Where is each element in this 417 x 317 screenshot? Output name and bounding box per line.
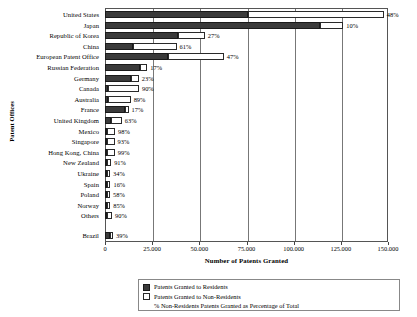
bar-segment-nonresidents: [168, 53, 224, 60]
bar-rows-container: United States48%Japan10%Republic of Kore…: [0, 8, 417, 242]
legend-label-percentage: % Non-Residents Patents Granted as Perce…: [154, 302, 395, 310]
patents-granted-chart: Patent Offices United States48%Japan10%R…: [0, 0, 417, 317]
bar-row: Hong Kong, China99%: [0, 147, 417, 158]
x-tick-label: 150.000: [368, 245, 408, 252]
category-label: Australia: [0, 94, 99, 105]
percentage-label: 58%: [113, 189, 125, 200]
category-label: Singapore: [0, 136, 99, 147]
legend-label-nonresidents: Patents Granted to Non-Residents: [154, 293, 241, 301]
bar-segment-nonresidents: [107, 212, 112, 219]
bar-segment-nonresidents: [107, 128, 115, 135]
percentage-label: 99%: [118, 147, 130, 158]
category-label: Norway: [0, 200, 99, 211]
bar-segment-residents: [105, 32, 178, 39]
bar-row: United States48%: [0, 9, 417, 20]
category-label: Ukraine: [0, 168, 99, 179]
legend-item-nonresidents: Patents Granted to Non-Residents: [143, 293, 395, 301]
category-label: Hong Kong, China: [0, 147, 99, 158]
bar-row: France17%: [0, 104, 417, 115]
bar-row: Poland58%: [0, 189, 417, 200]
category-label: United Kingdom: [0, 115, 99, 126]
percentage-label: 61%: [180, 41, 192, 52]
category-label: Germany: [0, 73, 99, 84]
percentage-label: 91%: [114, 157, 126, 168]
bar-segment-nonresidents: [320, 22, 343, 29]
percentage-label: 39%: [116, 230, 128, 241]
category-label: France: [0, 104, 99, 115]
category-label: European Patent Office: [0, 51, 99, 62]
bar-row: China61%: [0, 41, 417, 52]
category-label: Mexico: [0, 126, 99, 137]
percentage-label: 48%: [387, 9, 399, 20]
percentage-label: 85%: [113, 200, 125, 211]
category-label: Russian Federation: [0, 62, 99, 73]
category-label: Republic of Korea: [0, 30, 99, 41]
bar-segment-nonresidents: [107, 191, 110, 198]
bar-segment-nonresidents: [110, 232, 113, 239]
bar-segment-residents: [105, 22, 320, 29]
percentage-label: 90%: [142, 83, 154, 94]
category-label: China: [0, 41, 99, 52]
bar-row: Japan10%: [0, 20, 417, 31]
x-tick-label: 0: [85, 245, 125, 252]
bar-segment-nonresidents: [107, 159, 111, 166]
legend-swatch-nonresidents-icon: [143, 293, 150, 300]
bar-segment-nonresidents: [107, 138, 115, 145]
bar-row: European Patent Office47%: [0, 51, 417, 62]
bar-row: Others90%: [0, 210, 417, 221]
percentage-label: 89%: [134, 94, 146, 105]
bar-row: Norway85%: [0, 200, 417, 211]
bar-row: Mexico98%: [0, 126, 417, 137]
category-label: Poland: [0, 189, 99, 200]
bar-segment-nonresidents: [133, 43, 177, 50]
x-tick-label: 25.000: [132, 245, 172, 252]
bar-row: Russian Federation17%: [0, 62, 417, 73]
legend-label-residents: Patents Granted to Residents: [154, 283, 228, 291]
x-tick-label: 50.000: [179, 245, 219, 252]
bar-row: Singapore93%: [0, 136, 417, 147]
category-label: New Zealand: [0, 157, 99, 168]
legend-swatch-residents-icon: [143, 284, 150, 291]
percentage-label: 17%: [150, 62, 162, 73]
percentage-label: 16%: [113, 179, 125, 190]
bar-segment-nonresidents: [131, 75, 139, 82]
percentage-label: 47%: [227, 51, 239, 62]
bar-row: Germany23%: [0, 73, 417, 84]
bar-row: New Zealand91%: [0, 157, 417, 168]
percentage-label: 23%: [142, 73, 154, 84]
percentage-label: 10%: [346, 20, 358, 31]
bar-segment-nonresidents: [248, 11, 384, 18]
bar-segment-residents: [105, 11, 248, 18]
percentage-label: 34%: [113, 168, 125, 179]
bar-row: United Kingdom63%: [0, 115, 417, 126]
x-tick-label: 100.000: [274, 245, 314, 252]
bar-row: Canada90%: [0, 83, 417, 94]
x-axis-title: Number of Patents Granted: [105, 257, 388, 264]
bar-row: Ukraine34%: [0, 168, 417, 179]
percentage-label: 63%: [125, 115, 137, 126]
bar-row: Republic of Korea27%: [0, 30, 417, 41]
percentage-label: 17%: [132, 104, 144, 115]
percentage-label: 27%: [208, 30, 220, 41]
bar-segment-residents: [105, 64, 140, 71]
category-label: Others: [0, 210, 99, 221]
x-tick-label: 75.000: [227, 245, 267, 252]
bar-row: Australia89%: [0, 94, 417, 105]
bar-segment-nonresidents: [108, 85, 139, 92]
percentage-label: 93%: [118, 136, 130, 147]
bar-segment-residents: [105, 106, 125, 113]
legend-item-residents: Patents Granted to Residents: [143, 283, 395, 291]
chart-legend: Patents Granted to Residents Patents Gra…: [138, 279, 400, 311]
x-tick-label: 125.000: [321, 245, 361, 252]
bar-segment-residents: [105, 53, 168, 60]
category-label: United States: [0, 9, 99, 20]
bar-segment-nonresidents: [107, 149, 115, 156]
category-label: Japan: [0, 20, 99, 31]
bar-segment-residents: [105, 43, 133, 50]
bar-row: Brazil39%: [0, 230, 417, 241]
bar-segment-nonresidents: [125, 106, 129, 113]
bar-segment-nonresidents: [108, 96, 131, 103]
bar-segment-nonresidents: [140, 64, 147, 71]
category-label: Canada: [0, 83, 99, 94]
bar-segment-residents: [105, 75, 131, 82]
